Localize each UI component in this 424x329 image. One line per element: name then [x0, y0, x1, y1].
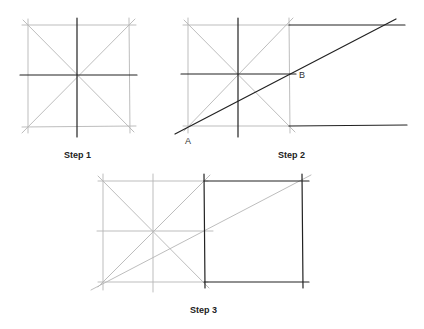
- step-3-label: Step 3: [190, 305, 217, 315]
- step-1-label: Step 1: [64, 150, 91, 160]
- step-3-diagram: [91, 174, 311, 292]
- step-2-label: Step 2: [278, 150, 305, 160]
- point-b-label: B: [299, 70, 305, 80]
- point-a-label: A: [185, 136, 191, 146]
- perspective-drawing: [0, 0, 424, 329]
- step-1-diagram: [20, 18, 137, 137]
- step-2-diagram: [175, 18, 407, 137]
